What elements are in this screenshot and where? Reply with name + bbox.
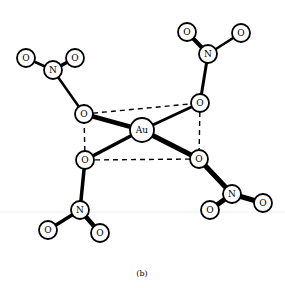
terminal-o-label: O: [96, 228, 103, 238]
bridging-o-label: O: [196, 98, 203, 108]
terminal-o-label: O: [206, 205, 213, 215]
n-label: N: [49, 65, 57, 75]
nitrate-group-lower-right: O N O O: [190, 150, 272, 219]
nitrate-group-lower-left: O N O O: [39, 151, 109, 242]
bridging-o-label: O: [195, 154, 202, 164]
terminal-o-label: O: [183, 27, 190, 37]
n-label: N: [76, 205, 84, 215]
nitrate-group-upper-left: O N O O: [17, 49, 93, 123]
terminal-o-label: O: [259, 198, 266, 208]
terminal-o-label: O: [44, 225, 51, 235]
bridging-o-label: O: [80, 109, 87, 119]
au-nitrate-structure-diagram: Au O N O O O N O O O N O O O N: [0, 0, 285, 288]
nitrate-group-upper-right: O N O O: [178, 23, 250, 112]
au-label: Au: [135, 125, 148, 135]
bridging-o-label: O: [81, 155, 88, 165]
n-label: N: [204, 49, 212, 59]
terminal-o-label: O: [237, 28, 244, 38]
atom-au: Au: [130, 118, 154, 142]
figure-caption: (b): [136, 269, 147, 278]
terminal-o-label: O: [71, 53, 78, 63]
terminal-o-label: O: [22, 53, 29, 63]
n-label: N: [228, 189, 236, 199]
